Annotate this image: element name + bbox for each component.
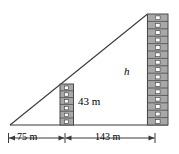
short-building-height-label: 43 m: [78, 96, 100, 107]
far-distance-label: 143 m: [95, 132, 120, 142]
near-distance-label: 75 m: [17, 132, 37, 142]
tall-building-height-label: h: [124, 66, 130, 77]
tall-building: [148, 14, 169, 125]
short-building: [60, 84, 74, 125]
triangle-outline: [10, 14, 168, 125]
figure-canvas: 43 m h 75 m 143 m: [0, 0, 179, 154]
tall-building-windows: [155, 16, 160, 123]
